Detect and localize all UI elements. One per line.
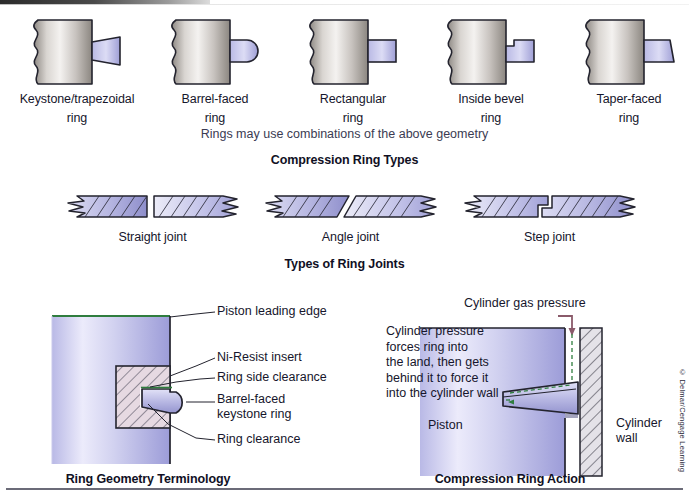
- ring-type-label-line2: ring: [8, 111, 146, 126]
- compression-ring-types-caption: Compression Ring Types: [0, 153, 689, 167]
- callout-barrel-faced-keystone-ring-line1: Barrel-faced: [217, 392, 285, 407]
- barrel-faced-ring-svg: [146, 16, 284, 88]
- ring-type-label-line2: ring: [284, 111, 422, 126]
- barrel-faced-ring-illustration: [146, 16, 284, 88]
- taper-faced-ring-illustration: [560, 16, 689, 88]
- ring-type-barrel-faced-ring: Barrel-faced ring: [146, 16, 284, 125]
- leader-piston-leading-edge: [170, 312, 215, 317]
- rectangular-ring-illustration: [284, 16, 422, 88]
- ring-joint-label: Step joint: [452, 230, 647, 245]
- body-line-5: into the cylinder wall: [386, 386, 546, 402]
- ring-geometry-caption: Ring Geometry Terminology: [18, 472, 278, 486]
- ring-type-taper-faced-ring: Taper-faced ring: [560, 16, 689, 125]
- ring-joint-step-joint: Step joint: [452, 190, 647, 245]
- rectangular-ring-svg: [284, 16, 422, 88]
- ring-combination-note: Rings may use combinations of the above …: [0, 127, 689, 141]
- callout-barrel-faced-keystone-ring-line2: keystone ring: [217, 407, 291, 422]
- ring-type-label-line1: Barrel-faced: [146, 92, 284, 107]
- callout-piston-leading-edge: Piston leading edge: [217, 304, 327, 319]
- body-line-2: forces ring into: [386, 340, 546, 356]
- ring-type-keystone-trapezoidal-ring: Keystone/trapezoidal ring: [8, 16, 146, 125]
- scan-edge-line: [0, 4, 689, 5]
- ring-type-label-line2: ring: [146, 111, 284, 126]
- ring-type-inside-bevel-ring: Inside bevel ring: [422, 16, 560, 125]
- leader-ni-resist-insert: [170, 358, 215, 376]
- ring-type-rectangular-ring: Rectangular ring: [284, 16, 422, 125]
- cylinder-wall-block: [580, 328, 602, 476]
- keystone-ring-illustration: [8, 16, 146, 88]
- ring-joint-label: Angle joint: [253, 230, 448, 245]
- ring-type-row: Keystone/trapezoidal ring Barrel-faced r…: [8, 16, 681, 125]
- straight-joint-svg: [55, 190, 250, 224]
- ring-type-label-line1: Rectangular: [284, 92, 422, 107]
- callout-ni-resist-insert: Ni-Resist insert: [217, 350, 302, 365]
- step-joint-svg: [452, 190, 647, 224]
- body-line-3: the land, then gets: [386, 355, 546, 371]
- ring-type-label-line1: Keystone/trapezoidal: [8, 92, 146, 107]
- callout-ring-side-clearance: Ring side clearance: [217, 370, 327, 385]
- ring-joint-angle-joint: Angle joint: [253, 190, 448, 245]
- ring-type-label-line2: ring: [560, 111, 689, 126]
- piston-label: Piston: [428, 418, 463, 433]
- taper-faced-ring-svg: [560, 16, 689, 88]
- cylinder-wall-label-line1: Cylinder: [616, 416, 662, 431]
- inside-bevel-ring-svg: [422, 16, 560, 88]
- compression-ring-action-section: Cylinder gas pressure: [380, 296, 689, 496]
- ring-type-label-line2: ring: [422, 111, 560, 126]
- figure-page: Keystone/trapezoidal ring Barrel-faced r…: [0, 0, 689, 496]
- keystone-ring-svg: [8, 16, 146, 88]
- bottom-divider: [6, 488, 683, 490]
- cylinder-gas-pressure-label: Cylinder gas pressure: [464, 296, 586, 311]
- body-line-1: Cylinder pressure: [386, 324, 546, 340]
- angle-joint-svg: [253, 190, 448, 224]
- ring-type-label-line1: Inside bevel: [422, 92, 560, 107]
- compression-ring-action-caption: Compression Ring Action: [400, 472, 620, 486]
- inside-bevel-ring-illustration: [422, 16, 560, 88]
- ring-geometry-terminology-section: Piston leading edge Ni-Resist insert Rin…: [0, 296, 380, 496]
- ring-joints-caption: Types of Ring Joints: [0, 257, 689, 271]
- ring-joint-label: Straight joint: [55, 230, 250, 245]
- compression-ring-action-body-text: Cylinder pressure forces ring into the l…: [386, 324, 546, 402]
- cylinder-wall-label-line2: wall: [616, 431, 638, 446]
- body-line-4: behind it to force it: [386, 371, 546, 387]
- copyright-notice: © Delmar/Cengage Learning: [678, 368, 687, 472]
- ring-type-label-line1: Taper-faced: [560, 92, 689, 107]
- ring-joint-straight-joint: Straight joint: [55, 190, 250, 245]
- callout-ring-clearance: Ring clearance: [217, 432, 300, 447]
